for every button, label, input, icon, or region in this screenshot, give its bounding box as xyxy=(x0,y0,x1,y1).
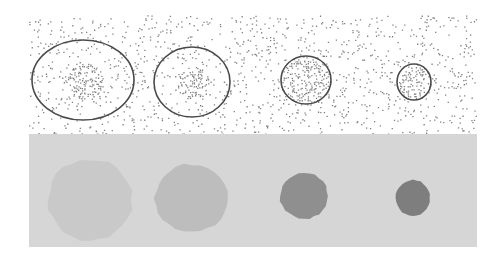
figure-canvas xyxy=(0,0,503,262)
segmentation-figure xyxy=(0,0,503,262)
noisy-image-panel xyxy=(29,15,477,136)
segmented-regions-panel xyxy=(29,134,477,247)
noisy-image-background xyxy=(29,15,477,134)
